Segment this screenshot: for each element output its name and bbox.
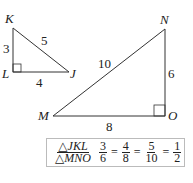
fraction-3: 5 10 [144,141,158,164]
vertex-label-l: L [1,66,9,81]
equals-sign: = [134,145,141,160]
similarity-ratio-box: △JKL △MNO 3 6 = 4 8 = 5 10 = 1 2 [46,138,185,167]
side-kl-length: 3 [3,41,10,56]
fraction-denominator: 6 [99,153,107,164]
vertex-label-m: M [37,108,50,123]
side-lj-length: 4 [36,75,43,90]
fraction-1: 3 6 [99,141,107,164]
equals-sign: = [111,145,118,160]
side-kj-length: 5 [41,33,48,48]
fraction-denominator: 8 [122,153,130,164]
ratio-label-bottom: △MNO [54,153,92,164]
vertex-label-n: N [159,12,170,27]
fraction-4: 1 2 [173,141,181,164]
side-mn-length: 10 [98,56,111,71]
vertex-label-j: J [70,66,77,81]
triangle-ratio-label: △JKL △MNO [54,141,92,164]
fraction-2: 4 8 [122,141,130,164]
fraction-denominator: 10 [144,153,158,164]
vertex-label-k: K [4,11,15,26]
triangle-mno: N M O 10 6 8 [37,12,178,134]
side-no-length: 6 [168,66,175,81]
right-angle-marker-l [13,64,21,72]
triangle-jkl: K L J 3 5 4 [1,11,77,90]
right-angle-marker-o [154,105,165,116]
side-mo-length: 8 [106,119,113,134]
equals-sign: = [162,145,169,160]
fraction-denominator: 2 [173,153,181,164]
vertex-label-o: O [168,108,178,123]
